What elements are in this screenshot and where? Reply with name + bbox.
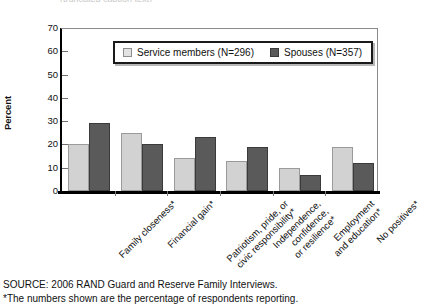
y-axis-title: Percent <box>2 78 13 148</box>
legend-label-service-members: Service members (N=296) <box>137 47 254 58</box>
category-label-line: Independence, <box>271 198 323 250</box>
category-label-line: or resilience* <box>286 214 338 266</box>
x-axis-category-label: Independence,confidence,or resilience* <box>271 198 339 266</box>
legend-item-service-members[interactable]: Service members (N=296) <box>123 47 254 58</box>
legend-label-spouses: Spouses (N=357) <box>284 47 362 58</box>
bar[interactable] <box>195 137 216 191</box>
y-axis-tick-label: 60 <box>36 46 58 56</box>
bar[interactable] <box>89 123 110 191</box>
x-axis-tick-mark <box>273 191 274 196</box>
category-label-line: and education* <box>331 206 384 259</box>
y-axis-tick-label: 0 <box>36 186 58 196</box>
x-axis-tick-mark <box>115 191 116 196</box>
category-label-line: Patriotism, pride, or <box>224 198 290 264</box>
bar-chart-figure: Percent 706050403020100 Service members … <box>0 0 434 304</box>
y-axis-tick-label: 70 <box>36 23 58 33</box>
bar[interactable] <box>226 161 247 191</box>
y-axis-tick-label: 50 <box>36 70 58 80</box>
legend-swatch-spouses <box>270 48 279 57</box>
x-axis-category-label: No positives* <box>374 198 421 245</box>
y-axis-tick-label: 40 <box>36 93 58 103</box>
x-axis-category-label: Patriotism, pride, orcivic responsibilit… <box>224 198 298 272</box>
bar-group <box>68 28 110 191</box>
bar[interactable] <box>247 147 268 191</box>
category-label-line: Employment <box>324 198 377 251</box>
x-axis-baseline <box>58 191 380 194</box>
bar[interactable] <box>121 133 142 191</box>
source-note: SOURCE: 2006 RAND Guard and Reserve Fami… <box>3 279 278 290</box>
legend-swatch-service-members <box>123 48 132 57</box>
bar[interactable] <box>174 158 195 191</box>
bar[interactable] <box>142 144 163 191</box>
x-axis-tick-mark <box>220 191 221 196</box>
x-axis-category-label: Family closeness* <box>117 198 179 260</box>
category-label-line: confidence, <box>279 206 331 258</box>
y-axis-tick-label: 10 <box>36 163 58 173</box>
x-axis-tick-mark <box>325 191 326 196</box>
bar[interactable] <box>332 147 353 191</box>
x-axis-category-label: Financial gain* <box>165 198 217 250</box>
category-label-line: civic responsibility* <box>232 206 298 272</box>
category-label-line: Financial gain* <box>165 198 217 250</box>
legend-item-spouses[interactable]: Spouses (N=357) <box>270 47 362 58</box>
y-axis-tick-label: 20 <box>36 139 58 149</box>
x-axis-category-label: Employmentand education* <box>324 198 384 258</box>
bar[interactable] <box>68 144 89 191</box>
category-label-line: Family closeness* <box>117 198 179 260</box>
bar[interactable] <box>279 168 300 191</box>
category-label-line: No positives* <box>374 198 421 245</box>
x-axis-tick-mark <box>167 191 168 196</box>
footnote-note: *The numbers shown are the percentage of… <box>3 293 433 304</box>
y-axis-tick-label: 30 <box>36 116 58 126</box>
bar[interactable] <box>353 163 374 191</box>
bar[interactable] <box>300 175 321 191</box>
chart-legend: Service members (N=296) Spouses (N=357) <box>113 41 373 64</box>
